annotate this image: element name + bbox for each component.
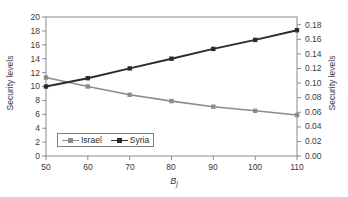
y-left-tick-10: 10 [18,81,40,91]
legend-label-israel: Israel [81,135,102,145]
y-left-tick-18: 18 [18,26,40,36]
legend-item-israel: Israel [62,135,102,145]
y-right-tick-006: 0.06 [305,107,331,117]
legend-item-syria: Syria [111,135,149,145]
y-left-tick-14: 14 [18,54,40,64]
y-left-tick-6: 6 [18,109,40,119]
y-right-tick-008: 0.08 [305,92,331,102]
y-left-tick-20: 20 [18,12,40,22]
y-right-tick-000: 0.00 [305,151,331,161]
x-tick-70: 70 [115,162,145,172]
x-tick-50: 50 [31,162,61,172]
y-right-tick-018: 0.18 [305,20,331,30]
chart-legend: Israel Syria [57,133,154,147]
y-right-tick-014: 0.14 [305,49,331,59]
y-left-tick-4: 4 [18,123,40,133]
x-tick-110: 110 [282,162,312,172]
y-left-tick-2: 2 [18,137,40,147]
y-left-tick-16: 16 [18,40,40,50]
y-right-tick-016: 0.16 [305,34,331,44]
chart-container: Security levels Security levels Bj [0,0,348,197]
y-axis-right-ticks [297,25,301,156]
x-tick-100: 100 [240,162,270,172]
legend-label-syria: Syria [130,135,149,145]
y-right-tick-002: 0.02 [305,136,331,146]
y-right-tick-012: 0.12 [305,63,331,73]
x-tick-90: 90 [198,162,228,172]
x-axis-ticks [46,156,297,160]
legend-marker-israel-icon [62,136,79,144]
x-tick-60: 60 [73,162,103,172]
y-left-tick-8: 8 [18,95,40,105]
legend-marker-syria-icon [111,136,128,144]
y-left-tick-0: 0 [18,151,40,161]
y-left-tick-12: 12 [18,68,40,78]
y-right-tick-004: 0.04 [305,121,331,131]
x-tick-80: 80 [156,162,186,172]
y-right-tick-010: 0.10 [305,78,331,88]
